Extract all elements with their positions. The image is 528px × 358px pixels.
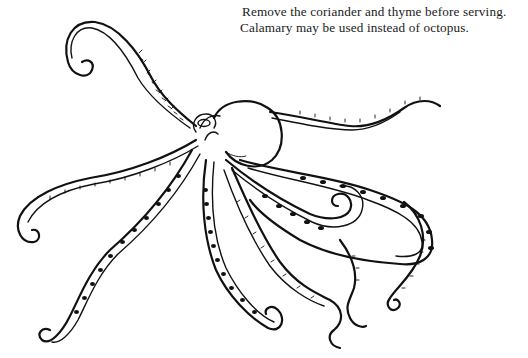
tentacle-upper-left (66, 22, 196, 128)
tentacle-bottom-right (340, 240, 366, 327)
octopus-illustration (0, 0, 528, 358)
tentacle-right-loop (240, 160, 434, 264)
tentacle-upper-right (270, 97, 440, 130)
tentacle-middle-curl (226, 160, 363, 230)
octopus-body (194, 101, 282, 166)
tentacle-left (18, 140, 198, 242)
